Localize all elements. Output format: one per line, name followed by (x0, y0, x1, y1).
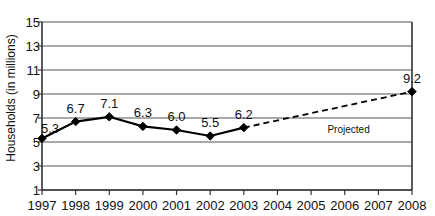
x-axis-tick-label: 2006 (330, 199, 359, 212)
data-point-label: 6.3 (134, 106, 152, 119)
x-axis-tick-label: 1998 (61, 199, 90, 212)
x-axis-tick-label: 2002 (196, 199, 225, 212)
x-axis-tick-label: 2004 (263, 199, 292, 212)
data-point-marker (139, 122, 147, 130)
x-axis-tick-label: 2007 (364, 199, 393, 212)
x-axis-tick-label: 1997 (28, 199, 57, 212)
data-point-marker (105, 113, 113, 121)
line-chart: Households (in millions) 13579111315 199… (0, 0, 435, 216)
data-point-label: 6.0 (167, 110, 185, 123)
x-axis-tick-label: 2000 (128, 199, 157, 212)
data-point-marker (206, 132, 214, 140)
x-axis-tick-label: 2008 (398, 199, 427, 212)
data-point-label: 6.7 (67, 102, 85, 115)
data-point-label: 9.2 (403, 72, 421, 85)
data-point-label: 5.5 (201, 116, 219, 129)
projected-annotation: Projected (327, 125, 369, 135)
x-axis-tick-label: 1999 (95, 199, 124, 212)
projected-line (244, 92, 412, 128)
x-axis-tick-label: 2005 (297, 199, 326, 212)
data-point-marker (71, 117, 79, 125)
data-point-label: 5.3 (41, 122, 59, 135)
x-axis-tick-label: 2001 (162, 199, 191, 212)
plot-area (0, 0, 435, 216)
data-point-marker (172, 126, 180, 134)
x-axis-tick-label: 2003 (229, 199, 258, 212)
data-point-label: 6.2 (235, 108, 253, 121)
data-point-label: 7.1 (100, 97, 118, 110)
